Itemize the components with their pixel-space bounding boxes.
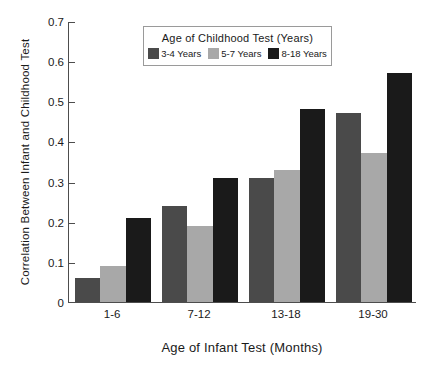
x-axis-tick-label: 7-12 — [188, 308, 211, 320]
bar-group — [336, 22, 412, 302]
y-axis-tick-labels: 00.10.20.30.40.50.60.7 — [28, 22, 64, 303]
legend-title: Age of Childhood Test (Years) — [150, 32, 325, 44]
y-axis-tick-label: 0.7 — [28, 17, 64, 28]
x-axis-tick-label: 1-6 — [104, 308, 121, 320]
y-axis-tick-label: 0.6 — [28, 57, 64, 68]
legend-swatch-icon — [148, 48, 159, 59]
bar — [100, 266, 125, 302]
x-axis-tick-labels: 1-67-1213-1819-30 — [68, 308, 416, 328]
chart-legend: Age of Childhood Test (Years) 3-4 Years5… — [143, 26, 332, 66]
y-axis-tick-label: 0.1 — [28, 257, 64, 268]
legend-entries: 3-4 Years5-7 Years8-18 Years — [150, 48, 325, 59]
bar — [300, 109, 325, 302]
legend-entry-label: 5-7 Years — [221, 48, 261, 59]
bar — [162, 206, 187, 302]
x-axis-tick-label: 19-30 — [358, 308, 387, 320]
bar — [75, 278, 100, 302]
y-axis-tick-label: 0.4 — [28, 137, 64, 148]
legend-swatch-icon — [268, 48, 279, 59]
bar — [336, 113, 361, 302]
legend-swatch-icon — [208, 48, 219, 59]
y-axis-tick-label: 0.3 — [28, 177, 64, 188]
bar — [274, 170, 299, 302]
legend-entry: 3-4 Years — [148, 48, 201, 59]
bar — [387, 73, 412, 302]
bar — [361, 153, 386, 302]
y-axis-tick-label: 0.5 — [28, 97, 64, 108]
bar — [126, 218, 151, 302]
x-axis-tick-label: 13-18 — [271, 308, 300, 320]
bar-group — [75, 22, 151, 302]
bar-chart-figure: Correlation Between Infant and Childhood… — [0, 0, 432, 377]
legend-entry: 8-18 Years — [268, 48, 326, 59]
y-axis-tick-label: 0 — [28, 298, 64, 309]
bar — [213, 178, 238, 302]
bar — [249, 178, 274, 302]
y-axis-tick-label: 0.2 — [28, 217, 64, 228]
legend-entry: 5-7 Years — [208, 48, 261, 59]
x-axis-title: Age of Infant Test (Months) — [68, 340, 416, 355]
bar — [187, 226, 212, 302]
legend-entry-label: 8-18 Years — [281, 48, 326, 59]
legend-entry-label: 3-4 Years — [161, 48, 201, 59]
